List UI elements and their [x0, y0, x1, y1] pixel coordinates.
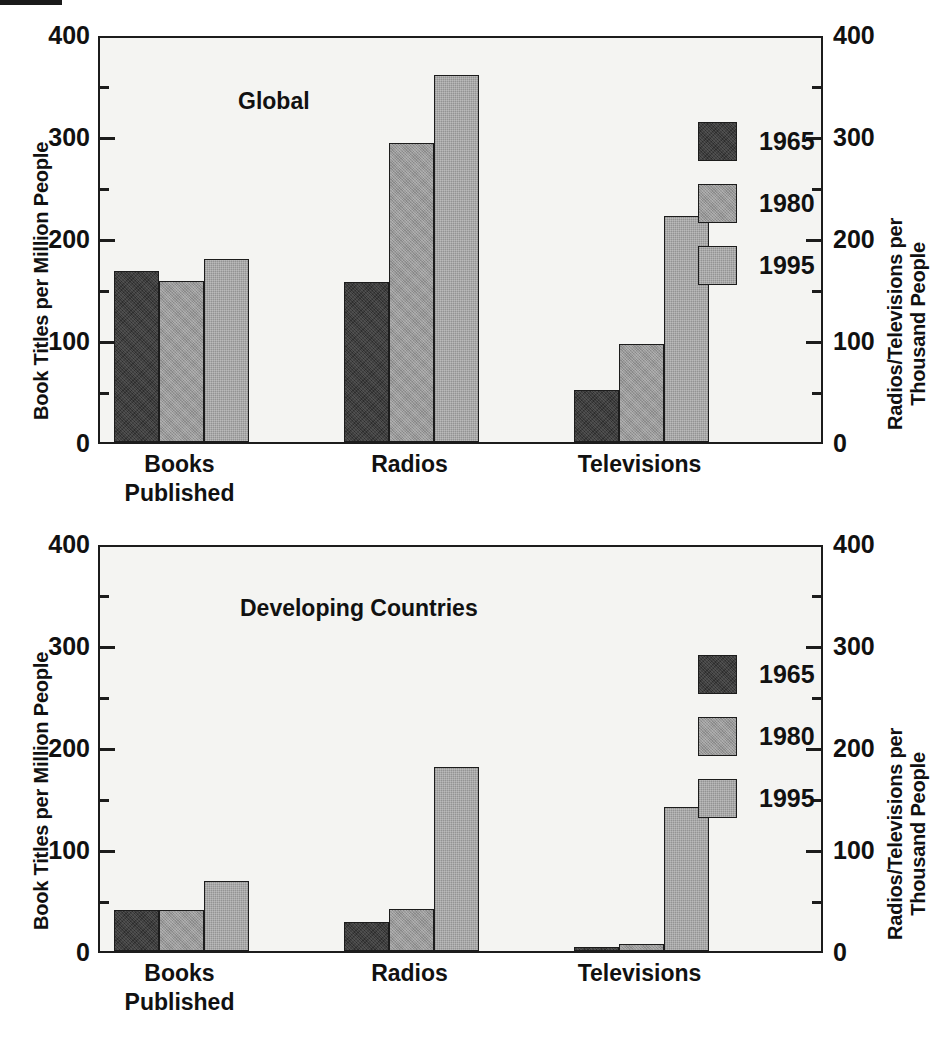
- category-label-books-line1: Books: [144, 451, 214, 477]
- right-tick-100: 100: [833, 329, 875, 354]
- bar-global-books-1980: [159, 281, 204, 442]
- left-tick-100-dev: 100: [48, 838, 90, 863]
- chart-panel-global: Book Titles per Million People Radios/Te…: [0, 0, 941, 520]
- category-label-radios-developing: Radios: [342, 959, 477, 988]
- category-label-radios-line1: Radios: [371, 451, 448, 477]
- left-tick-400: 400: [48, 23, 90, 48]
- left-tick-400-dev: 400: [48, 532, 90, 557]
- category-label-books-line1-dev: Books: [144, 960, 214, 986]
- right-tick-0: 0: [833, 431, 847, 456]
- legend-label-1980: 1980: [759, 191, 815, 216]
- category-label-televisions-global: Televisions: [572, 450, 707, 479]
- left-tick-300-dev: 300: [48, 634, 90, 659]
- legend-swatch-1965-icon: [698, 122, 737, 161]
- category-labels-developing: Books Published Radios Televisions: [98, 959, 823, 1029]
- category-label-televisions-line1-dev: Televisions: [578, 960, 702, 986]
- left-tick-0-dev: 0: [76, 940, 90, 965]
- bar-global-radios-1965: [344, 282, 389, 442]
- category-label-books-line2: Published: [112, 479, 247, 508]
- bar-developing-radios-1965: [344, 922, 389, 951]
- bar-developing-books-1980: [159, 910, 204, 951]
- bar-global-televisions-1965: [574, 390, 619, 442]
- bar-developing-radios-1995: [434, 767, 479, 951]
- legend-item-1980-dev: 1980: [698, 705, 898, 767]
- legend-swatch-1980-icon: [698, 184, 737, 223]
- bar-global-radios-1980: [389, 143, 434, 442]
- bar-developing-books-1995: [204, 881, 249, 951]
- bar-developing-radios-1980: [389, 909, 434, 951]
- legend-item-1995: 1995: [698, 234, 898, 296]
- legend-developing: 1965 1980 1995: [698, 643, 898, 829]
- right-axis-title-line2: Thousand People: [907, 218, 930, 430]
- legend-item-1965: 1965: [698, 110, 898, 172]
- right-tick-0-dev: 0: [833, 940, 847, 965]
- bar-global-radios-1995: [434, 75, 479, 442]
- legend-label-1995-dev: 1995: [759, 786, 815, 811]
- bar-developing-televisions-1965: [574, 947, 619, 951]
- legend-global: 1965 1980 1995: [698, 110, 898, 296]
- plot-area-developing: Developing Countries 1965 1980: [98, 545, 823, 953]
- category-label-televisions-line1: Televisions: [578, 451, 702, 477]
- left-tick-0: 0: [76, 431, 90, 456]
- legend-swatch-1980-icon-dev: [698, 717, 737, 756]
- category-label-radios-global: Radios: [342, 450, 477, 479]
- legend-label-1995: 1995: [759, 253, 815, 278]
- left-tick-200-dev: 200: [48, 736, 90, 761]
- legend-label-1965: 1965: [759, 129, 815, 154]
- legend-swatch-1995-icon-dev: [698, 779, 737, 818]
- category-labels-global: Books Published Radios Televisions: [98, 450, 823, 520]
- category-label-books-developing: Books Published: [112, 959, 247, 1017]
- category-label-books-line2-dev: Published: [112, 988, 247, 1017]
- bar-global-books-1965: [114, 271, 159, 442]
- legend-item-1995-dev: 1995: [698, 767, 898, 829]
- left-tick-300: 300: [48, 125, 90, 150]
- left-tick-labels-developing: 400 300 200 100 0: [20, 545, 90, 953]
- bar-global-books-1995: [204, 259, 249, 442]
- legend-swatch-1965-icon-dev: [698, 655, 737, 694]
- legend-label-1965-dev: 1965: [759, 662, 815, 687]
- bar-developing-televisions-1980: [619, 944, 664, 951]
- legend-item-1965-dev: 1965: [698, 643, 898, 705]
- left-tick-labels-global: 400 300 200 100 0: [20, 36, 90, 444]
- category-label-radios-line1-dev: Radios: [371, 960, 448, 986]
- right-axis-title-line2-developing: Thousand People: [907, 728, 930, 940]
- legend-item-1980: 1980: [698, 172, 898, 234]
- chart-panel-developing: Book Titles per Million People Radios/Te…: [0, 512, 941, 1061]
- legend-swatch-1995-icon: [698, 246, 737, 285]
- category-label-televisions-developing: Televisions: [572, 959, 707, 988]
- legend-label-1980-dev: 1980: [759, 724, 815, 749]
- bar-developing-books-1965: [114, 910, 159, 951]
- category-label-books-global: Books Published: [112, 450, 247, 508]
- plot-area-global: Global 1965 1980: [98, 36, 823, 444]
- right-tick-400-dev: 400: [833, 532, 875, 557]
- left-tick-200: 200: [48, 227, 90, 252]
- right-tick-400: 400: [833, 23, 875, 48]
- bar-global-televisions-1980: [619, 344, 664, 442]
- left-tick-100: 100: [48, 329, 90, 354]
- right-tick-100-dev: 100: [833, 838, 875, 863]
